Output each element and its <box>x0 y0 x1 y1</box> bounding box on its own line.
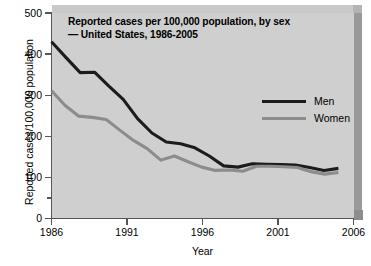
legend-swatch-men <box>262 100 306 103</box>
legend-label-women: Women <box>314 111 350 125</box>
series-line-men <box>52 42 339 171</box>
legend-swatch-women <box>262 117 306 120</box>
data-series-layer <box>0 0 371 266</box>
chart-figure: 0100200300400500 19861991199620012006 Re… <box>0 0 371 266</box>
series-line-women <box>52 91 339 174</box>
legend-label-men: Men <box>314 94 334 108</box>
